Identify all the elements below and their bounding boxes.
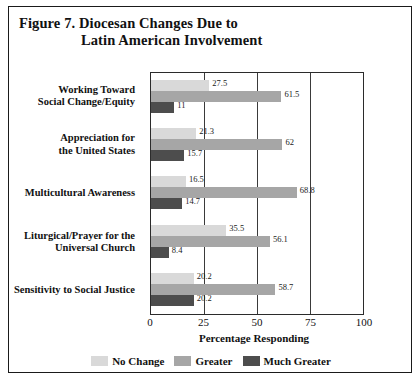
bar-group-bars: 27.561.511 bbox=[151, 80, 363, 113]
bar-value-label: 14.7 bbox=[182, 196, 200, 207]
bar-group-bars: 20.258.720.2 bbox=[151, 273, 363, 306]
bar-value-label: 56.1 bbox=[270, 234, 288, 245]
bar-row: 58.7 bbox=[151, 284, 363, 295]
bar-group-4: 35.556.18.4 bbox=[151, 218, 363, 266]
bar-group-3: 16.568.814.7 bbox=[151, 169, 363, 217]
bar-value-label: 61.5 bbox=[281, 89, 299, 100]
bar-row: 35.5 bbox=[151, 225, 363, 236]
category-label-line: Working Toward bbox=[38, 84, 135, 97]
figure-title-line-2: Latin American Involvement bbox=[19, 32, 399, 49]
category-label-line: Universal Church bbox=[24, 242, 135, 255]
bar-much-greater[interactable] bbox=[151, 198, 182, 209]
category-label-text: Multicultural Awareness bbox=[25, 187, 140, 200]
bar-value-label: 35.5 bbox=[226, 223, 244, 234]
bar-group-bars: 16.568.814.7 bbox=[151, 176, 363, 209]
category-label-5: Sensitivity to Social Justice bbox=[9, 266, 140, 315]
bar-value-label: 62 bbox=[282, 137, 294, 148]
bar-groups: 27.561.51121.36215.716.568.814.735.556.1… bbox=[151, 73, 363, 314]
bar-group-bars: 21.36215.7 bbox=[151, 128, 363, 161]
legend-item-greater[interactable]: Greater bbox=[174, 355, 232, 367]
bar-row: 11 bbox=[151, 102, 363, 113]
bar-value-label: 58.7 bbox=[275, 282, 293, 293]
bar-row: 20.2 bbox=[151, 295, 363, 306]
legend-swatch bbox=[174, 356, 191, 366]
bar-no-change[interactable] bbox=[151, 273, 194, 284]
bar-group-2: 21.36215.7 bbox=[151, 121, 363, 169]
chart-legend: No ChangeGreaterMuch Greater bbox=[9, 355, 413, 367]
figure-title-line-1: Figure 7. Diocesan Changes Due to bbox=[19, 15, 238, 31]
x-tick-0: 0 bbox=[147, 316, 153, 328]
bar-row: 56.1 bbox=[151, 236, 363, 247]
x-axis-ticks: 0255075100 bbox=[142, 316, 372, 332]
bar-no-change[interactable] bbox=[151, 128, 196, 139]
x-tick-75: 75 bbox=[305, 316, 316, 328]
x-tick-50: 50 bbox=[252, 316, 263, 328]
figure-frame: Figure 7. Diocesan Changes Due to Latin … bbox=[8, 6, 412, 373]
bar-much-greater[interactable] bbox=[151, 150, 184, 161]
category-label-line: Social Change/Equity bbox=[38, 96, 135, 109]
category-label-4: Liturgical/Prayer for theUniversal Churc… bbox=[9, 218, 140, 267]
plot-area: 27.561.51121.36215.716.568.814.735.556.1… bbox=[142, 72, 364, 315]
bar-much-greater[interactable] bbox=[151, 295, 194, 306]
bar-row: 20.2 bbox=[151, 273, 363, 284]
bar-value-label: 8.4 bbox=[169, 245, 183, 256]
x-tick-25: 25 bbox=[198, 316, 209, 328]
bar-greater[interactable] bbox=[151, 187, 297, 198]
bar-row: 16.5 bbox=[151, 176, 363, 187]
x-tick-100: 100 bbox=[356, 316, 373, 328]
category-label-1: Working TowardSocial Change/Equity bbox=[9, 72, 140, 121]
bar-greater[interactable] bbox=[151, 284, 275, 295]
bar-value-label: 68.8 bbox=[297, 185, 315, 196]
bar-greater[interactable] bbox=[151, 91, 281, 102]
bar-value-label: 16.5 bbox=[186, 174, 204, 185]
bar-group-1: 27.561.511 bbox=[151, 73, 363, 121]
bar-value-label: 21.3 bbox=[196, 126, 214, 137]
category-axis-labels: Working TowardSocial Change/EquityApprec… bbox=[9, 72, 140, 315]
bar-row: 21.3 bbox=[151, 128, 363, 139]
category-label-line: the United States bbox=[59, 145, 135, 158]
bar-value-label: 27.5 bbox=[209, 78, 227, 89]
category-label-text: Liturgical/Prayer for theUniversal Churc… bbox=[24, 230, 140, 255]
category-label-text: Appreciation forthe United States bbox=[59, 132, 140, 157]
category-label-line: Multicultural Awareness bbox=[25, 187, 135, 200]
category-label-3: Multicultural Awareness bbox=[9, 169, 140, 218]
legend-label: No Change bbox=[112, 355, 164, 367]
x-axis-label: Percentage Responding bbox=[142, 332, 366, 344]
legend-label: Much Greater bbox=[264, 355, 331, 367]
bar-no-change[interactable] bbox=[151, 176, 186, 187]
bar-row: 27.5 bbox=[151, 80, 363, 91]
bar-no-change[interactable] bbox=[151, 80, 209, 91]
bar-row: 8.4 bbox=[151, 247, 363, 258]
legend-item-no-change[interactable]: No Change bbox=[91, 355, 164, 367]
legend-swatch bbox=[243, 356, 260, 366]
bar-row: 62 bbox=[151, 139, 363, 150]
bar-greater[interactable] bbox=[151, 139, 282, 150]
bar-value-label: 11 bbox=[174, 100, 185, 111]
bar-row: 14.7 bbox=[151, 198, 363, 209]
bar-group-bars: 35.556.18.4 bbox=[151, 225, 363, 258]
bar-no-change[interactable] bbox=[151, 225, 226, 236]
bar-much-greater[interactable] bbox=[151, 247, 169, 258]
category-label-line: Appreciation for bbox=[59, 132, 135, 145]
legend-label: Greater bbox=[195, 355, 232, 367]
bar-value-label: 20.2 bbox=[194, 293, 212, 304]
category-label-text: Working TowardSocial Change/Equity bbox=[38, 84, 140, 109]
bar-value-label: 15.7 bbox=[184, 148, 202, 159]
category-label-2: Appreciation forthe United States bbox=[9, 121, 140, 170]
bar-group-5: 20.258.720.2 bbox=[151, 266, 363, 314]
category-label-text: Sensitivity to Social Justice bbox=[14, 284, 140, 297]
category-label-line: Sensitivity to Social Justice bbox=[14, 284, 135, 297]
legend-item-much-greater[interactable]: Much Greater bbox=[243, 355, 331, 367]
legend-swatch bbox=[91, 356, 108, 366]
bar-much-greater[interactable] bbox=[151, 102, 174, 113]
figure-title: Figure 7. Diocesan Changes Due to Latin … bbox=[19, 15, 399, 49]
bar-value-label: 20.2 bbox=[194, 271, 212, 282]
category-label-line: Liturgical/Prayer for the bbox=[24, 230, 135, 243]
bar-row: 15.7 bbox=[151, 150, 363, 161]
